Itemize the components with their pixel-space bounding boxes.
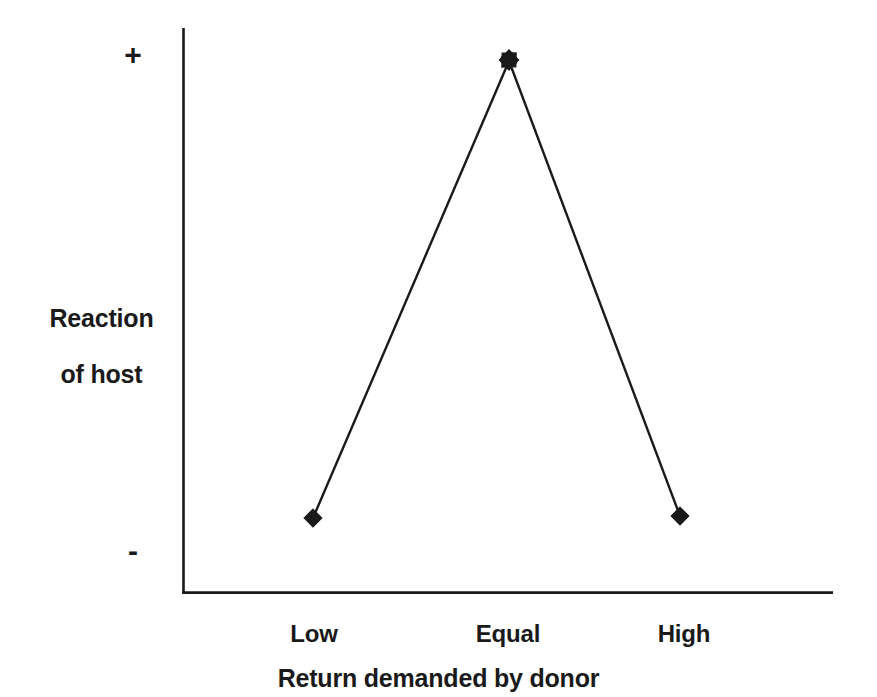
x-tick-label-high: High <box>594 620 774 648</box>
x-axis-title: Return demanded by donor <box>0 663 877 693</box>
x-tick-label-low: Low <box>224 620 404 648</box>
data-point-marker-equal[interactable] <box>495 46 523 74</box>
data-point-marker-high[interactable] <box>672 508 689 525</box>
x-tick-label-equal: Equal <box>418 620 598 648</box>
y-axis-negative-sign: - <box>118 534 148 568</box>
series-segment-equal-to-high <box>509 61 680 516</box>
series-segment-low-to-equal <box>313 61 509 518</box>
y-axis-title-line-2: of host <box>61 360 143 388</box>
y-axis-positive-sign: + <box>118 38 148 72</box>
y-axis-title-line-1: Reaction <box>50 304 154 332</box>
chart-figure: + - Reaction of host Low Equal High Retu… <box>0 0 877 697</box>
y-axis-title: Reaction of host <box>8 276 168 416</box>
data-point-marker-low[interactable] <box>305 510 322 527</box>
